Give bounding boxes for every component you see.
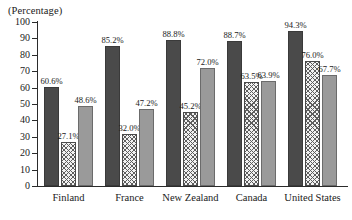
y-axis-label: 50: [0, 99, 30, 109]
x-axis-category-label: United States: [268, 191, 352, 204]
y-axis-label: 20: [0, 148, 30, 158]
y-axis-tick: [32, 170, 37, 171]
y-axis-label-text: 50: [0, 99, 30, 109]
bar-chart: (Percentage) 0102030405060708090100 60.6…: [0, 0, 352, 220]
y-axis-label-text: 30: [0, 132, 30, 142]
y-axis-label-text: 60: [0, 83, 30, 93]
bar-value-label: 76.0%: [298, 51, 328, 60]
bar: [183, 112, 198, 186]
bar: [244, 82, 259, 186]
y-axis-line: [37, 21, 38, 187]
bar-group: 60.6%27.1%48.6%: [44, 22, 93, 186]
bar: [78, 106, 93, 186]
bar-value-label: 88.8%: [159, 30, 189, 39]
bar-group: 88.8%45.2%72.0%: [166, 22, 215, 186]
y-axis-label: 40: [0, 115, 30, 125]
bar-value-label: 67.7%: [315, 65, 345, 74]
bar: [305, 61, 320, 186]
bar-value-label: 63.9%: [254, 71, 284, 80]
y-axis-label-text: 70: [0, 66, 30, 76]
bar-value-label: 72.0%: [193, 58, 223, 67]
bar: [139, 109, 154, 186]
y-axis-label: 60: [0, 83, 30, 93]
bar: [261, 81, 276, 186]
y-axis-label-text: 0: [0, 181, 30, 191]
y-axis-tick: [32, 71, 37, 72]
bar: [200, 68, 215, 186]
bar-value-label: 94.3%: [281, 21, 311, 30]
y-axis-tick: [32, 38, 37, 39]
y-axis-label: 0: [0, 181, 30, 191]
y-axis-label: 100: [0, 17, 30, 27]
y-axis-tick: [32, 104, 37, 105]
bar: [61, 142, 76, 186]
y-axis-tick: [32, 55, 37, 56]
bar-value-label: 60.6%: [37, 77, 67, 86]
y-axis-label: 80: [0, 50, 30, 60]
y-axis-tick: [32, 22, 37, 23]
y-axis-tick: [32, 120, 37, 121]
bar-group: 85.2%32.0%47.2%: [105, 22, 154, 186]
x-axis-line: [37, 186, 348, 187]
bar-value-label: 47.2%: [132, 99, 162, 108]
y-axis-tick: [32, 137, 37, 138]
bar: [166, 40, 181, 186]
y-axis-label: 10: [0, 165, 30, 175]
y-axis-label: 30: [0, 132, 30, 142]
y-axis-label-text: 100: [0, 17, 30, 27]
y-axis-label-text: 20: [0, 148, 30, 158]
bar: [227, 41, 242, 186]
bar-value-label: 85.2%: [98, 36, 128, 45]
bar-value-label: 48.6%: [71, 96, 101, 105]
y-axis-label: 90: [0, 33, 30, 43]
bar: [322, 75, 337, 186]
bar-value-label: 88.7%: [220, 31, 250, 40]
y-axis-label-text: 10: [0, 165, 30, 175]
y-axis-tick: [32, 88, 37, 89]
bar: [105, 46, 120, 186]
y-axis-tick: [32, 186, 37, 187]
y-axis-label-text: 80: [0, 50, 30, 60]
bar: [122, 134, 137, 186]
bar-group: 94.3%76.0%67.7%: [288, 22, 337, 186]
bar-group: 88.7%63.5%63.9%: [227, 22, 276, 186]
y-axis-label: 70: [0, 66, 30, 76]
y-axis-label-text: 40: [0, 115, 30, 125]
y-axis-tick: [32, 153, 37, 154]
y-axis-label-text: 90: [0, 33, 30, 43]
